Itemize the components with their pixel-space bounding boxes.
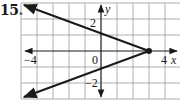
y-axis-label: y — [104, 2, 111, 16]
upper-ray — [24, 5, 149, 51]
tick-label-x-4: 4 — [161, 53, 167, 67]
vertex-point — [146, 48, 152, 54]
tick-label-origin: 0 — [92, 53, 98, 67]
lower-ray — [24, 51, 149, 97]
tick-label-y-2: 2 — [90, 16, 96, 30]
tick-label-x-neg4: −4 — [24, 53, 37, 67]
x-axis-label: x — [170, 53, 177, 67]
coordinate-graph: y x 2 −2 −4 0 4 — [0, 0, 180, 104]
tick-label-y-neg2: −2 — [85, 76, 98, 90]
